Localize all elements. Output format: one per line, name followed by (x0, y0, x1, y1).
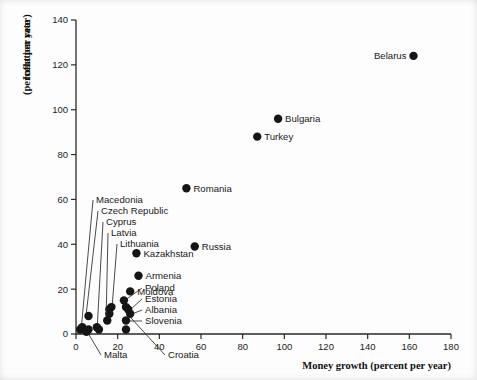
point-label: Croatia (168, 349, 200, 360)
y-tick-label: 60 (57, 194, 68, 205)
point-label: Turkey (264, 131, 293, 142)
callout-line (81, 200, 93, 331)
data-point (93, 323, 101, 331)
x-tick-label: 180 (443, 341, 459, 352)
data-point (253, 132, 261, 140)
callout-line (86, 211, 98, 316)
y-tick-label: 40 (57, 239, 68, 250)
data-point (84, 312, 92, 320)
y-tick-label: 80 (57, 149, 68, 160)
point-label: Cyprus (106, 216, 137, 227)
data-point (274, 114, 282, 122)
y-tick-label: 20 (57, 284, 68, 295)
point-label: Albania (145, 304, 178, 315)
point-label: Poland (145, 282, 175, 293)
y-axis-title-line2: (percent per year) (21, 14, 33, 95)
callout-line (112, 244, 117, 308)
x-tick-label: 120 (318, 341, 334, 352)
point-label: Macedonia (96, 194, 144, 205)
point-label: Belarus (374, 50, 407, 61)
point-label: Lithuania (120, 238, 160, 249)
x-tick-label: 100 (276, 341, 292, 352)
data-point (82, 328, 90, 336)
x-tick-label: 80 (237, 341, 248, 352)
point-label: Czech Republic (101, 205, 168, 216)
y-tick-label: 120 (52, 59, 68, 70)
point-label: Estonia (145, 293, 178, 304)
data-point (122, 316, 130, 324)
point-label: Latvia (111, 227, 137, 238)
x-tick-label: 40 (154, 341, 165, 352)
chart-figure: 0204060801001201400204060801001201401601… (0, 0, 477, 380)
data-point (182, 184, 190, 192)
point-label: Bulgaria (285, 113, 321, 124)
data-point (122, 325, 130, 333)
point-label: Malta (104, 349, 128, 360)
y-tick-label: 100 (52, 104, 68, 115)
y-tick-label: 0 (63, 328, 68, 339)
x-tick-label: 140 (360, 341, 376, 352)
scatter-plot: 0204060801001201400204060801001201401601… (0, 0, 477, 380)
axis-lines (76, 20, 451, 334)
x-axis-title: Money growth (percent per year) (302, 360, 451, 372)
data-point (409, 52, 417, 60)
point-label: Russia (202, 241, 232, 252)
point-label: Romania (193, 183, 232, 194)
point-label: Slovenia (145, 315, 182, 326)
point-label: Kazakhstan (143, 248, 193, 259)
data-point (107, 303, 115, 311)
callout-line (97, 222, 103, 331)
point-label: Armenia (146, 270, 182, 281)
y-tick-label: 140 (52, 14, 68, 25)
data-point (134, 271, 142, 279)
data-point (120, 296, 128, 304)
data-point (132, 249, 140, 257)
x-tick-label: 0 (73, 341, 78, 352)
callout-line (88, 333, 101, 355)
x-tick-label: 160 (401, 341, 417, 352)
data-point (103, 316, 111, 324)
